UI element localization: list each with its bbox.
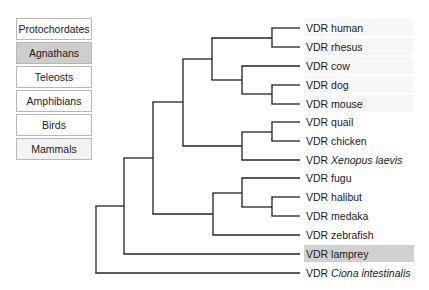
phylogenetic-tree: VDR humanVDR rhesusVDR cowVDR dogVDR mou… <box>0 0 429 290</box>
leaf-label-mouse: VDR mouse <box>306 98 363 110</box>
leaf-label-cow: VDR cow <box>306 60 350 72</box>
leaf-label-xenopus-laevis: VDR Xenopus laevis <box>306 154 403 166</box>
leaf-label-ciona-intestinalis: VDR Ciona intestinalis <box>306 267 411 279</box>
leaf-label-fugu: VDR fugu <box>306 172 352 184</box>
tree-branches <box>95 28 300 273</box>
leaf-label-halibut: VDR halibut <box>306 191 362 203</box>
leaf-label-medaka: VDR medaka <box>306 210 369 222</box>
leaf-label-human: VDR human <box>306 22 363 34</box>
leaf-label-chicken: VDR chicken <box>306 135 367 147</box>
leaf-label-zebrafish: VDR zebrafish <box>306 229 374 241</box>
leaf-label-rhesus: VDR rhesus <box>306 41 363 53</box>
leaf-label-quail: VDR quail <box>306 116 353 128</box>
leaf-label-lamprey: VDR lamprey <box>306 248 369 260</box>
leaf-label-dog: VDR dog <box>306 79 349 91</box>
